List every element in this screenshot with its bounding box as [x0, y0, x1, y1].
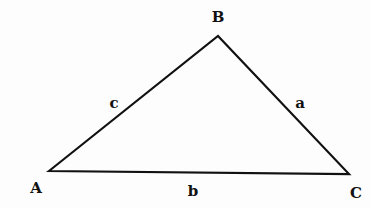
- triangle-diagram: A B C c a b: [0, 0, 370, 208]
- side-label-b: b: [188, 182, 199, 200]
- vertex-label-c: C: [350, 184, 362, 202]
- vertex-label-a: A: [29, 179, 42, 197]
- vertex-label-b: B: [212, 8, 225, 26]
- side-label-c: c: [109, 94, 118, 112]
- side-label-a: a: [295, 94, 305, 112]
